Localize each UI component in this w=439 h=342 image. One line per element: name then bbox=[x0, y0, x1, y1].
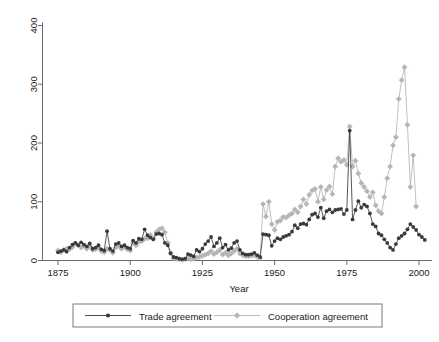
data-point bbox=[359, 206, 363, 210]
data-point bbox=[345, 208, 349, 212]
data-point bbox=[408, 222, 412, 226]
y-axis-tick-label: 300 bbox=[28, 76, 39, 92]
x-axis-tick-label: 2000 bbox=[408, 267, 429, 278]
data-point bbox=[374, 225, 378, 229]
data-point bbox=[160, 233, 164, 237]
data-point bbox=[290, 230, 294, 234]
y-axis-tick-label: 0 bbox=[28, 258, 39, 263]
data-point bbox=[218, 236, 222, 240]
data-point bbox=[287, 233, 291, 237]
chart-background bbox=[0, 0, 439, 342]
data-point bbox=[203, 242, 207, 246]
data-point bbox=[304, 223, 308, 227]
data-point bbox=[143, 227, 147, 231]
chart-figure: 0100200300400 187519001925195019752000 Y… bbox=[0, 0, 439, 342]
data-point bbox=[111, 249, 115, 253]
data-point bbox=[102, 249, 106, 253]
legend-label: Cooperation agreement bbox=[268, 311, 368, 322]
data-point bbox=[88, 242, 92, 246]
data-point bbox=[151, 237, 155, 241]
data-point bbox=[212, 245, 216, 249]
data-point bbox=[105, 229, 109, 233]
data-point bbox=[411, 225, 415, 229]
y-axis-tick-label: 400 bbox=[28, 18, 39, 34]
x-axis-tick-label: 1950 bbox=[264, 267, 285, 278]
chart-legend: Trade agreementCooperation agreement bbox=[73, 304, 382, 327]
data-point bbox=[117, 241, 121, 245]
line-chart: 0100200300400 187519001925195019752000 Y… bbox=[0, 0, 439, 342]
data-point bbox=[258, 255, 262, 259]
data-point bbox=[365, 205, 369, 209]
data-point bbox=[68, 246, 72, 250]
y-axis-tick-label: 100 bbox=[28, 194, 39, 210]
x-axis-tick-label: 1900 bbox=[120, 267, 141, 278]
data-point bbox=[76, 243, 80, 247]
data-point bbox=[356, 199, 360, 203]
data-point bbox=[209, 235, 213, 239]
data-point bbox=[140, 237, 144, 241]
data-point bbox=[328, 207, 332, 211]
data-point bbox=[406, 227, 410, 231]
data-point bbox=[307, 217, 311, 221]
data-point bbox=[273, 239, 277, 243]
data-point bbox=[215, 241, 219, 245]
data-point bbox=[235, 239, 239, 243]
data-point bbox=[192, 254, 196, 258]
data-point bbox=[267, 233, 271, 237]
data-point bbox=[229, 246, 233, 250]
x-axis-tick-label: 1925 bbox=[192, 267, 213, 278]
data-point bbox=[201, 247, 205, 251]
data-point bbox=[423, 238, 427, 242]
data-point bbox=[85, 245, 89, 249]
data-point bbox=[238, 248, 242, 252]
data-point bbox=[293, 223, 297, 227]
data-point bbox=[169, 252, 173, 256]
data-point bbox=[339, 207, 343, 211]
data-point bbox=[270, 244, 274, 248]
x-axis-tick-label: 1875 bbox=[47, 267, 68, 278]
data-point bbox=[166, 243, 170, 247]
data-point bbox=[380, 233, 384, 237]
data-point bbox=[342, 212, 346, 216]
data-point bbox=[368, 212, 372, 216]
data-point bbox=[391, 248, 395, 252]
data-point bbox=[65, 250, 69, 254]
data-point bbox=[394, 242, 398, 246]
data-point bbox=[128, 247, 132, 251]
data-point bbox=[206, 239, 210, 243]
y-axis-tick-label: 200 bbox=[28, 135, 39, 151]
data-point bbox=[296, 226, 300, 230]
data-point bbox=[322, 216, 326, 220]
data-point bbox=[382, 237, 386, 241]
data-point bbox=[414, 228, 418, 232]
data-point bbox=[313, 212, 317, 216]
data-point bbox=[319, 206, 323, 210]
data-point bbox=[183, 257, 187, 261]
data-point bbox=[351, 217, 355, 221]
data-point bbox=[403, 232, 407, 236]
data-point bbox=[316, 215, 320, 219]
legend-marker bbox=[106, 313, 110, 317]
data-point bbox=[198, 250, 202, 254]
data-point bbox=[385, 241, 389, 245]
data-point bbox=[354, 208, 358, 212]
data-point bbox=[224, 243, 228, 247]
data-point bbox=[420, 235, 424, 239]
data-point bbox=[134, 241, 138, 245]
x-axis-tick-label: 1975 bbox=[336, 267, 357, 278]
x-axis-title: Year bbox=[229, 283, 248, 294]
data-point bbox=[221, 246, 225, 250]
legend-label: Trade agreement bbox=[139, 311, 212, 322]
data-point bbox=[97, 243, 101, 247]
data-point bbox=[348, 129, 352, 133]
